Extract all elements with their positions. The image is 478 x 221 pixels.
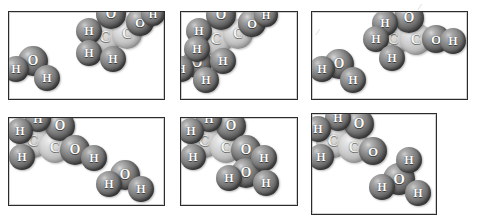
panel-6: HHOCCHOHOHH — [311, 113, 437, 215]
atom-label: O — [55, 119, 66, 133]
atom-label: H — [108, 53, 117, 65]
atom-h: H — [180, 144, 206, 170]
atom-label: H — [333, 113, 342, 124]
atom-label: H — [149, 11, 158, 20]
atom-label: O — [404, 11, 415, 25]
atom-h: H — [396, 147, 422, 173]
molecule-group: HHOCCHOHHOH — [181, 118, 297, 205]
molecule-group: OHCCOHHHOHH — [181, 12, 297, 99]
atom-label: H — [42, 72, 51, 84]
atom-label: C — [210, 31, 222, 47]
atom-label: H — [180, 63, 186, 75]
atom-label: H — [448, 35, 457, 47]
atom-label: H — [413, 187, 422, 199]
atom-label: C — [349, 140, 360, 155]
atom-h: H — [9, 144, 35, 170]
atom-h: H — [96, 171, 122, 197]
atom-label: O — [241, 143, 252, 157]
atom-label: H — [387, 52, 396, 64]
panel-4: HHOCCHOHHOH — [8, 117, 165, 206]
atom-h: H — [251, 145, 277, 171]
atom-h: H — [8, 56, 29, 82]
panel-1: OHCCOHHHOHH — [8, 11, 165, 100]
mark-top-right: ⁄ — [419, 2, 421, 12]
atom-label: H — [104, 178, 113, 190]
atom-h: H — [128, 176, 154, 202]
atom-label: H — [218, 55, 227, 67]
atom-label: O — [241, 166, 252, 180]
atom-label: H — [33, 117, 42, 125]
atom-h: H — [8, 118, 33, 144]
atom-h: H — [253, 170, 279, 196]
atom-label: O — [70, 143, 81, 157]
atom-label: C — [50, 140, 61, 155]
molecule-group: OHCCOHHHOHH — [9, 12, 164, 99]
atom-label: H — [377, 181, 386, 193]
atom-label: H — [371, 33, 380, 45]
atom-label: H — [404, 154, 413, 166]
atom-label: O — [334, 57, 345, 71]
atom-h: H — [340, 67, 366, 93]
atom-label: H — [313, 123, 322, 135]
atom-h: H — [379, 45, 405, 71]
atom-label: O — [393, 172, 405, 187]
atom-label: H — [84, 25, 93, 37]
atom-h: H — [440, 28, 466, 54]
atom-label: O — [226, 119, 237, 133]
atom-label: O — [106, 11, 117, 21]
atom-label: H — [136, 183, 145, 195]
atom-label: H — [259, 152, 268, 164]
molecule-group: HOHCCOHHHOH — [312, 12, 467, 99]
atom-label: H — [348, 74, 357, 86]
atom-h: H — [34, 65, 60, 91]
panel-5: HHOCCHOHHOH — [180, 117, 298, 206]
atom-h: H — [81, 145, 107, 171]
atom-label: O — [216, 11, 227, 22]
atom-label: H — [317, 63, 326, 75]
atom-label: H — [262, 11, 271, 21]
atom-label: H — [186, 125, 195, 137]
atom-label: O — [28, 54, 39, 68]
atom-label: O — [368, 145, 378, 158]
atom-label: C — [411, 32, 422, 47]
atom-label: H — [84, 47, 93, 59]
figure-canvas: OHCCOHHHOHHOHCCOHHHOHHHOHCCOHHHOHHHOCCHO… — [0, 0, 478, 221]
atom-h: H — [216, 165, 242, 191]
mark-panel3-inner: ⁄ — [317, 27, 319, 37]
atom-label: H — [192, 43, 201, 55]
atom-o: O — [359, 137, 387, 165]
atom-label: H — [261, 177, 270, 189]
atom-label: H — [188, 151, 197, 163]
atom-label: C — [221, 140, 232, 155]
atom-label: H — [201, 74, 210, 86]
atom-label: H — [11, 63, 20, 75]
atom-label: H — [204, 117, 213, 125]
atom-h: H — [311, 144, 334, 170]
atom-h: H — [193, 67, 219, 93]
panel-3: HOHCCOHHHOH — [311, 11, 468, 100]
atom-h: H — [76, 40, 102, 66]
atom-h: H — [405, 180, 431, 206]
atom-h: H — [311, 56, 335, 82]
atom-h: H — [100, 46, 126, 72]
atom-label: H — [224, 172, 233, 184]
molecule-group: HHOCCHOHHOH — [9, 118, 164, 205]
atom-label: H — [17, 151, 26, 163]
panel-2: OHCCOHHHOHH — [180, 11, 298, 100]
molecule-group: HHOCCHOHOHH — [312, 114, 436, 214]
atom-label: H — [15, 125, 24, 137]
atom-h: H — [369, 174, 395, 200]
atom-label: H — [316, 151, 325, 163]
atom-label: O — [354, 117, 365, 131]
atom-label: H — [89, 152, 98, 164]
